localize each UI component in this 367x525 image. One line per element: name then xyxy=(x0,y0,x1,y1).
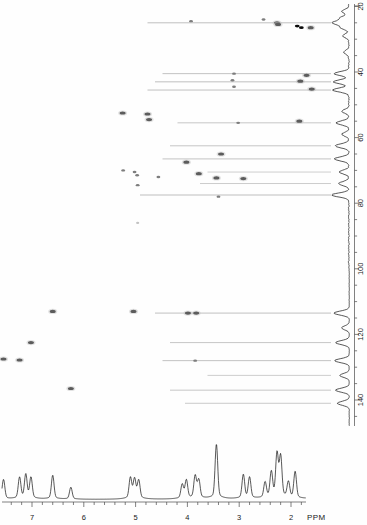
cross-peak xyxy=(15,357,24,362)
carbon-tick-label: 20 xyxy=(356,2,365,10)
carbon-trace xyxy=(332,4,349,426)
cross-peak xyxy=(156,176,160,178)
cross-peak xyxy=(231,79,235,81)
cross-peak xyxy=(232,86,236,88)
cross-peak xyxy=(143,111,152,116)
proton-tick-label: 5 xyxy=(134,513,138,522)
proton-axis-labels: 765432 xyxy=(30,513,293,522)
carbon-tick-label: 40 xyxy=(356,68,365,76)
cross-peak-layer xyxy=(0,18,316,391)
cross-peak xyxy=(217,195,221,197)
proton-tick-label: 6 xyxy=(82,513,86,522)
cross-peak xyxy=(274,22,283,27)
cross-peak xyxy=(299,26,304,29)
cross-peak xyxy=(295,119,304,124)
cross-peak xyxy=(262,18,266,20)
cross-peak xyxy=(296,79,305,84)
cross-peak xyxy=(182,160,191,165)
carbon-tick-label: 100 xyxy=(356,263,365,276)
carbon-tick-label: 60 xyxy=(356,133,365,141)
carbon-tick-label: 140 xyxy=(356,394,365,407)
cross-peak xyxy=(212,175,221,180)
cross-peak xyxy=(136,222,139,224)
cross-peak xyxy=(26,340,35,345)
proton-tick-label: 2 xyxy=(289,513,293,522)
cross-peak xyxy=(192,310,201,315)
cross-peak xyxy=(295,25,300,28)
cross-peak xyxy=(136,184,140,186)
cross-peak xyxy=(48,309,57,314)
proton-projection-panel: 765432 PPM xyxy=(0,430,367,525)
cross-peak xyxy=(145,117,154,122)
cross-peak xyxy=(0,356,8,361)
spectrum-2d-panel xyxy=(0,0,345,428)
proton-spectrum-trace xyxy=(2,445,306,500)
cross-peak xyxy=(121,169,125,171)
carbon-axis-labels: 20406080100120140 xyxy=(356,2,365,406)
proton-tick-label: 3 xyxy=(237,513,241,522)
cross-peak xyxy=(183,310,192,315)
cross-peak xyxy=(133,171,137,173)
ppm-unit-label: PPM xyxy=(307,513,326,522)
proton-trace xyxy=(2,445,306,500)
cross-peak xyxy=(217,151,226,156)
carbon-tick-label: 120 xyxy=(356,328,365,341)
carbon-projection-panel: 20406080100120140 xyxy=(330,0,367,430)
cross-peak xyxy=(307,86,316,91)
cross-peak xyxy=(66,386,75,391)
carbon-tick-label: 80 xyxy=(356,199,365,207)
cross-peak xyxy=(194,171,203,176)
cross-peak xyxy=(193,359,197,361)
cross-peak xyxy=(236,122,240,124)
cross-peak xyxy=(118,110,127,115)
cross-peak xyxy=(135,174,139,176)
cross-peak xyxy=(129,309,138,314)
cross-peak xyxy=(239,176,248,181)
nmr-figure: 20406080100120140 765432 PPM xyxy=(0,0,367,525)
carbon-spectrum-trace xyxy=(332,4,349,426)
proton-tick-label: 7 xyxy=(30,513,34,522)
proton-axis-ticks xyxy=(11,502,301,507)
cross-peak xyxy=(306,25,315,30)
cross-peak xyxy=(189,20,193,22)
proton-tick-label: 4 xyxy=(185,513,189,522)
cross-peak xyxy=(232,72,236,74)
cross-peak xyxy=(302,73,311,78)
